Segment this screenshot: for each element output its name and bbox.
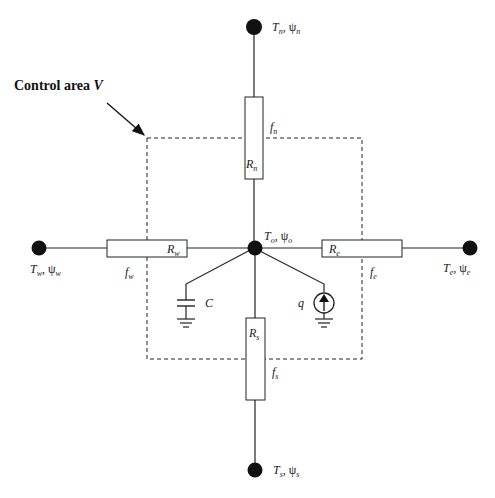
capacitor-wire [186,248,254,300]
node-west-label: Tw, ψw [30,262,62,278]
ground-icon [177,319,195,327]
source-wire [254,248,324,292]
node-east [463,241,478,256]
source-label: q [298,296,304,310]
ground-icon [315,319,333,327]
control-area-title: Control area V [14,78,105,93]
node-west [32,241,47,256]
thermal-network-diagram: Control area V Tn, ψn fn Rn Tw, ψw fw Rw… [0,0,495,498]
capacitor-label: C [205,296,214,310]
node-center-label: To, ψo [264,229,292,245]
face-south-label: fs [272,365,278,381]
face-west-label: fw [125,265,134,281]
node-north-label: Tn, ψn [272,20,300,36]
node-center [248,241,263,256]
control-area-arrow [107,103,144,135]
face-north-label: fn [270,120,277,136]
face-east-label: fe [370,265,377,281]
node-east-label: Te, ψe [443,261,471,277]
node-north [246,19,262,35]
node-south [248,463,263,478]
node-south-label: Ts, ψs [273,463,299,479]
